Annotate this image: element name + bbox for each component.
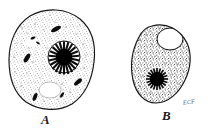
cell-a-nucleolus: [56, 49, 72, 65]
figure-container: A B ECF: [0, 0, 222, 131]
cell-b-nucleolus: [150, 72, 164, 86]
cell-illustration-svg: [0, 0, 222, 131]
cell-label-a: A: [41, 113, 50, 126]
cell-label-b: B: [162, 109, 171, 122]
cell-a-group: [0, 0, 120, 131]
